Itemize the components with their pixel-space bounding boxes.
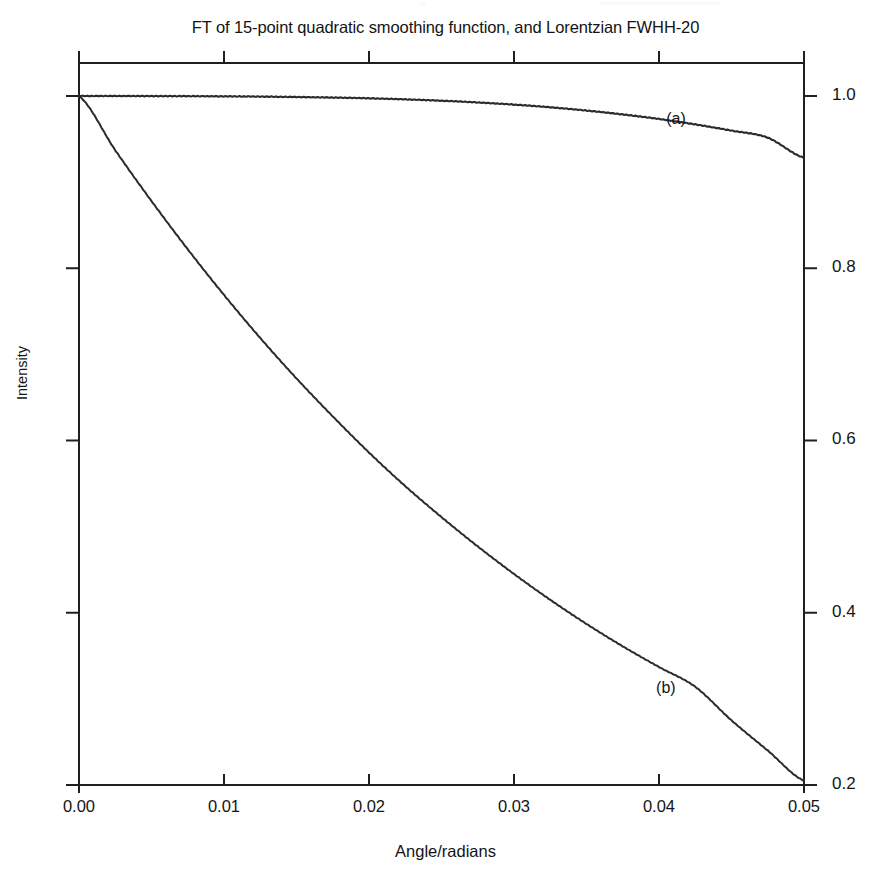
y-tick-label: 0.6: [832, 429, 856, 449]
x-tick-label: 0.04: [619, 797, 699, 816]
y-tick-label: 1.0: [832, 85, 856, 105]
x-tick-label: 0.00: [39, 797, 119, 816]
y-tick-label: 0.2: [832, 774, 856, 794]
curve-annotation-b: (b): [656, 679, 676, 697]
curve-b: [79, 96, 804, 780]
curve-a: [79, 96, 804, 158]
x-tick-label: 0.01: [184, 797, 264, 816]
chart-figure: FT of 15-point quadratic smoothing funct…: [0, 0, 891, 881]
x-tick-label: 0.02: [329, 797, 409, 816]
x-tick-label: 0.05: [764, 797, 844, 816]
y-tick-label: 0.8: [832, 257, 856, 277]
data-curves: [79, 96, 804, 781]
y-tick-label: 0.4: [832, 602, 856, 622]
curve-annotation-a: (a): [666, 110, 686, 128]
axes-frame: [66, 51, 817, 793]
x-tick-label: 0.03: [474, 797, 554, 816]
plot-canvas: [0, 0, 891, 881]
